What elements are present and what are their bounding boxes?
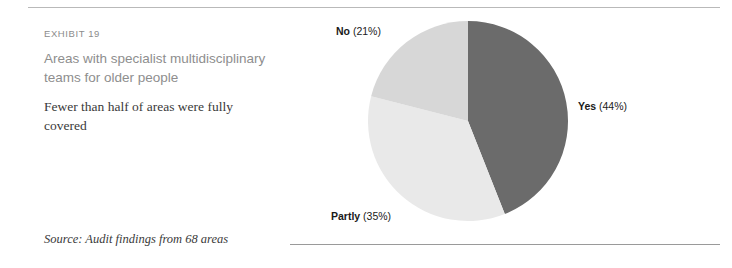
pie-label-partly-percent: (35%): [363, 210, 391, 222]
exhibit-page: EXHIBIT 19 Areas with specialist multidi…: [0, 0, 732, 268]
pie-label-partly: Partly (35%): [331, 210, 391, 223]
pie-label-no-percent: (21%): [353, 25, 381, 37]
pie-slices: [368, 21, 568, 221]
pie-label-yes-name: Yes: [578, 100, 596, 112]
exhibit-title: Areas with specialist multidisciplinary …: [44, 49, 284, 87]
pie-chart: No (21%) Yes (44%) Partly (35%): [330, 12, 720, 240]
pie-label-no: No (21%): [336, 25, 381, 38]
pie-label-yes: Yes (44%): [578, 100, 627, 113]
exhibit-number-label: EXHIBIT 19: [44, 27, 294, 40]
pie-label-yes-percent: (44%): [599, 100, 627, 112]
exhibit-text-column: EXHIBIT 19 Areas with specialist multidi…: [44, 27, 294, 135]
source-note: Source: Audit findings from 68 areas: [44, 232, 228, 247]
pie-label-partly-name: Partly: [331, 210, 360, 222]
top-divider: [28, 7, 720, 8]
pie-chart-svg: [330, 12, 720, 240]
exhibit-subtitle: Fewer than half of areas were fully cove…: [44, 97, 274, 135]
pie-label-no-name: No: [336, 25, 350, 37]
bottom-divider: [290, 244, 720, 245]
